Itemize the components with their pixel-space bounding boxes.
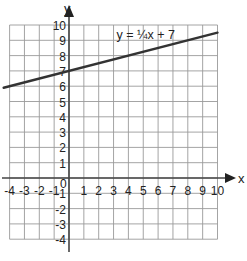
y-tick-label: 4 [59,111,66,125]
x-tick-label: 6 [155,184,162,198]
y-tick-label: -3 [55,218,66,232]
y-tick-label: 8 [59,50,66,64]
x-axis-label: x [238,171,245,186]
series-line [4,33,218,88]
coordinate-plane: x y -4-3-2-112345678910 10987654321-1-2-… [0,0,247,261]
y-tick-label: -4 [55,233,66,247]
y-tick-label: 2 [59,141,66,155]
origin-label: 0 [60,177,67,191]
x-tick-label: -2 [34,184,45,198]
x-tick-label: -4 [4,184,15,198]
y-tick-label: 6 [59,80,66,94]
x-tick-label: 9 [199,184,206,198]
x-axis-arrow-icon [225,173,236,183]
y-tick-label: 5 [59,96,66,110]
y-tick-label: 3 [59,126,66,140]
y-axis-label: y [64,1,71,16]
x-tick-label: 4 [125,184,132,198]
x-tick-label: 7 [170,184,177,198]
x-tick-label: 5 [140,184,147,198]
y-tick-label: 10 [53,19,67,33]
x-tick-label: -3 [19,184,30,198]
x-tick-label: 8 [184,184,191,198]
x-tick-labels: -4-3-2-112345678910 [4,184,224,198]
y-tick-label: -2 [55,203,66,217]
y-tick-label: 9 [59,34,66,48]
y-tick-labels: 10987654321-1-2-3-4 [53,19,67,247]
equation-label: y = ¼x + 7 [117,28,175,42]
grid-lines [10,25,218,239]
x-tick-label: 2 [95,184,102,198]
x-tick-label: 10 [211,184,225,198]
x-tick-label: 3 [110,184,117,198]
y-tick-label: 1 [59,157,66,171]
x-tick-label: 1 [81,184,88,198]
